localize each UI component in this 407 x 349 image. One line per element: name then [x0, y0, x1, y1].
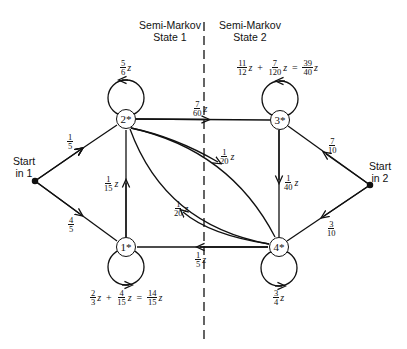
- label-start1-to-2: 15: [67, 133, 73, 150]
- label-4-to-2: 120z: [173, 200, 188, 217]
- label-loop-3: 1112z + 7120z = 3940z: [237, 59, 318, 76]
- label-loop-2: 56z: [120, 59, 131, 76]
- node-3[interactable]: 3*: [270, 110, 290, 130]
- label-1-to-2: 115z: [103, 175, 118, 192]
- node-2[interactable]: 2*: [116, 109, 136, 129]
- start1-label: Start in 1: [6, 155, 42, 179]
- diagram-canvas: [0, 0, 407, 349]
- label-3-to-4: 140z: [283, 174, 298, 191]
- node-4[interactable]: 4*: [269, 237, 289, 257]
- header-state2: Semi-Markov State 2: [210, 19, 290, 43]
- label-start1-to-1: 45: [68, 216, 74, 233]
- label-start2-to-3: 710: [327, 137, 338, 154]
- start2-label: Start in 2: [362, 160, 398, 184]
- label-4-to-1: 15z: [195, 251, 206, 268]
- label-2-to-4: 120z: [219, 148, 234, 165]
- node-1[interactable]: 1*: [116, 237, 136, 257]
- header-state1: Semi-Markov State 1: [130, 19, 210, 43]
- label-start2-to-4: 310: [326, 220, 337, 237]
- label-loop-4: 34z: [273, 289, 284, 306]
- label-2-to-3: 760z: [192, 100, 207, 117]
- edge-4-to-2: [130, 129, 269, 244]
- label-loop-1: 23z + 415z = 1415z: [90, 289, 162, 306]
